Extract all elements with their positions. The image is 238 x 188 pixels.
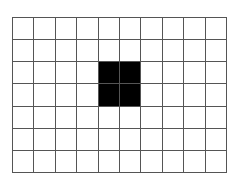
grid-cell <box>184 40 205 62</box>
grid-cell <box>141 84 162 106</box>
grid-cell <box>34 18 55 40</box>
grid-cell <box>56 18 77 40</box>
grid-cell <box>141 18 162 40</box>
grid-cell <box>141 40 162 62</box>
grid-cell <box>120 129 141 151</box>
grid-cell <box>206 84 227 106</box>
filled-cell <box>99 84 120 106</box>
grid-cell <box>56 84 77 106</box>
grid-cell <box>206 151 227 173</box>
grid-cell <box>34 107 55 129</box>
grid-cell <box>77 129 98 151</box>
grid-cell <box>56 151 77 173</box>
grid-cell <box>163 84 184 106</box>
grid-cell <box>34 40 55 62</box>
grid-cell <box>77 107 98 129</box>
grid-cell <box>184 151 205 173</box>
grid-cell <box>13 62 34 84</box>
grid-cell <box>184 129 205 151</box>
grid-cell <box>184 62 205 84</box>
grid-cell <box>206 40 227 62</box>
grid-cell <box>13 151 34 173</box>
grid-cell <box>34 84 55 106</box>
grid-cell <box>34 62 55 84</box>
grid-cell <box>141 107 162 129</box>
grid-cell <box>141 151 162 173</box>
filled-cell <box>99 62 120 84</box>
grid-cell <box>120 18 141 40</box>
square-grid <box>12 17 227 173</box>
grid-cell <box>120 40 141 62</box>
grid-cell <box>56 107 77 129</box>
grid-cell <box>184 84 205 106</box>
grid-cell <box>141 62 162 84</box>
grid-cell <box>120 151 141 173</box>
grid-cell <box>34 129 55 151</box>
diagram-canvas <box>0 0 238 188</box>
grid-cell <box>13 40 34 62</box>
grid-cell <box>163 107 184 129</box>
grid-cell <box>163 62 184 84</box>
grid-cell <box>206 129 227 151</box>
grid-cell <box>99 151 120 173</box>
grid-cell <box>184 107 205 129</box>
filled-cell <box>120 84 141 106</box>
grid-cell <box>77 151 98 173</box>
grid-cell <box>163 40 184 62</box>
grid-cell <box>77 40 98 62</box>
grid-cell <box>77 18 98 40</box>
grid-cell <box>77 84 98 106</box>
grid-cell <box>163 129 184 151</box>
grid-cell <box>184 18 205 40</box>
filled-cell <box>120 62 141 84</box>
grid-cell <box>163 18 184 40</box>
grid-cell <box>13 84 34 106</box>
grid-cell <box>206 18 227 40</box>
grid-cell <box>34 151 55 173</box>
grid-cell <box>99 40 120 62</box>
grid-cell <box>13 107 34 129</box>
grid-cell <box>99 18 120 40</box>
grid-cell <box>141 129 162 151</box>
grid-cell <box>13 129 34 151</box>
grid-cell <box>206 62 227 84</box>
grid-cell <box>56 40 77 62</box>
grid-cell <box>56 62 77 84</box>
grid-cell <box>99 129 120 151</box>
grid-cell <box>77 62 98 84</box>
grid-cell <box>13 18 34 40</box>
grid-cell <box>120 107 141 129</box>
grid-cell <box>163 151 184 173</box>
grid-cell <box>99 107 120 129</box>
grid-cell <box>56 129 77 151</box>
grid-cell <box>206 107 227 129</box>
